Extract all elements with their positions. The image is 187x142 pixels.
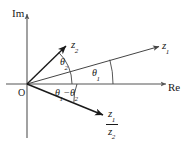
- vector-label-z1-subscript: 1: [166, 48, 170, 56]
- angle-label-theta1-subscript: 1: [96, 75, 100, 83]
- angle-arc-theta1: [110, 60, 113, 84]
- vector-label-z2: z2: [71, 39, 79, 53]
- origin-label: O: [18, 88, 25, 98]
- angle-label-theta2-subscript: 2: [64, 64, 68, 72]
- complex-plane-figure: Im Re O z2 z1 z1 z2 θ2 θ1 θ1−θ2: [0, 0, 187, 142]
- imaginary-axis-label: Im: [12, 8, 24, 19]
- angle-label-second-subscript: 2: [74, 95, 78, 103]
- real-axis-label: Re: [168, 82, 180, 93]
- fraction-denominator: z2: [106, 125, 118, 141]
- fraction-denominator-subscript: 2: [112, 133, 116, 141]
- angle-label-theta1: θ1: [92, 68, 100, 81]
- angle-label-theta2: θ2: [60, 57, 68, 70]
- angle-label-theta1-minus-theta2: θ1−θ2: [55, 88, 78, 101]
- vector-label-z1-over-z2: z1 z2: [106, 108, 118, 140]
- vector-label-z1: z1: [162, 40, 170, 54]
- vector-label-z2-subscript: 2: [75, 47, 79, 55]
- fraction-numerator: z1: [106, 108, 118, 124]
- angle-label-first-subscript: 1: [59, 95, 63, 103]
- fraction-numerator-subscript: 1: [112, 116, 116, 124]
